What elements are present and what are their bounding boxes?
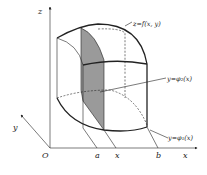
tick-x-label: x	[115, 151, 120, 160]
upper-curve-annotation: y=φ₂(x)	[166, 75, 192, 83]
solid-region-diagram: z y x O a x b z=f(x, y) y=φ₂(x) y=φ₁(x)	[0, 0, 207, 175]
y-axis-label: y	[12, 123, 18, 132]
y-axis	[21, 115, 50, 148]
z-axis-label: z	[37, 7, 43, 16]
x-axis-label: x	[183, 151, 188, 160]
tick-a-label: a	[95, 151, 100, 160]
tick-b-label: b	[156, 151, 161, 160]
solid-edges	[57, 22, 168, 148]
lower-curve-annotation: y=φ₁(x)	[167, 134, 193, 142]
origin-label: O	[42, 151, 49, 160]
cross-section-slice	[81, 28, 104, 130]
surface-annotation: z=f(x, y)	[132, 20, 161, 28]
